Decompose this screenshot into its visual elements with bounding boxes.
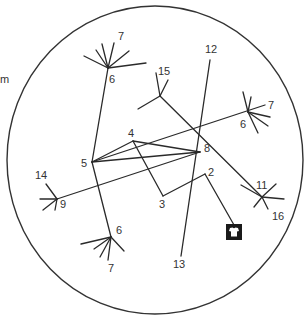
node-label: 6 [240,118,246,130]
node-label: 7 [118,30,124,42]
boundary-circle [7,6,303,314]
node-label: 7 [108,262,114,274]
node-label: 4 [128,127,134,139]
node-label: 7 [268,99,274,111]
edge-line [92,68,108,162]
node-label: 2 [208,166,214,178]
edge-line [262,197,284,199]
node-label: 13 [173,258,185,270]
side-label: m [0,73,9,85]
edge-line [254,197,262,207]
edge-line [160,80,168,96]
diagram-canvas: 761215764852149311166713 m [0,0,306,318]
edge-line [262,197,268,209]
node-label: 8 [204,142,210,154]
node-label: 11 [256,179,267,191]
node-label: 6 [116,224,122,236]
node-label: 9 [60,198,66,210]
edge-line [163,174,205,196]
edge-line [46,184,57,199]
network-diagram: 761215764852149311166713 [0,0,306,318]
edge-line [133,141,200,152]
edge-line [205,174,234,225]
edge-line [138,96,160,109]
edge-line [243,92,248,112]
edge-line [181,60,210,256]
node-label: 14 [35,169,47,181]
node-label: 5 [81,157,87,169]
shirt-icon[interactable] [226,224,242,240]
node-label: 16 [272,210,284,222]
node-label: 12 [205,43,217,55]
node-label: 15 [158,65,170,77]
node-labels-group: 761215764852149311166713 [35,30,284,274]
edge-line [92,162,111,237]
edge-line [111,237,124,251]
node-label: 6 [109,73,115,85]
node-label: 3 [159,198,165,210]
